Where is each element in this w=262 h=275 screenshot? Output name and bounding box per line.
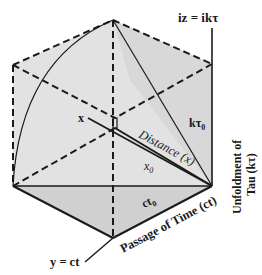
cube-diagram: iz = ikτ Unfoldment of Tau (kτ) Passage … [0,0,262,275]
x-axis-label: x [78,111,84,125]
top-axis-label: iz = ikτ [178,10,218,25]
y-ct-label: y = ct [50,255,80,269]
ct-axis-line [85,238,113,262]
right-axis-label-line1: Unfoldment of [230,139,244,214]
right-axis-label-line2: Tau (kτ) [244,153,258,196]
